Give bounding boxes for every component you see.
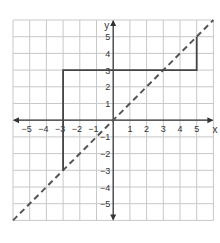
- y-tick-label: −1: [100, 132, 110, 142]
- x-tick-label: 2: [144, 124, 149, 134]
- x-tick-label: −1: [88, 124, 98, 134]
- y-tick-label: −4: [100, 183, 110, 193]
- x-tick-label: 1: [127, 124, 132, 134]
- y-axis-arrow-down-icon: [110, 214, 116, 220]
- y-tick-label: 2: [105, 82, 110, 92]
- coordinate-plane: −5−4−3−2−11234554321−1−2−3−4−5 x y: [0, 0, 220, 243]
- x-axis-arrow-left-icon: [13, 117, 19, 123]
- y-axis-label: y: [104, 20, 109, 31]
- y-tick-label: −5: [100, 199, 110, 209]
- y-tick-label: 5: [105, 32, 110, 42]
- x-tick-label: −2: [72, 124, 82, 134]
- x-tick-label: −4: [38, 124, 48, 134]
- y-axis-arrow-up-icon: [110, 20, 116, 26]
- x-tick-label: −5: [22, 124, 32, 134]
- x-axis-label: x: [212, 124, 217, 135]
- y-tick-label: −3: [100, 166, 110, 176]
- x-tick-label: 3: [161, 124, 166, 134]
- y-tick-label: 1: [105, 99, 110, 109]
- y-tick-label: −2: [100, 149, 110, 159]
- x-tick-label: 4: [177, 124, 182, 134]
- y-tick-label: 4: [105, 49, 110, 59]
- x-tick-label: 5: [194, 124, 199, 134]
- x-axis-arrow-right-icon: [207, 117, 213, 123]
